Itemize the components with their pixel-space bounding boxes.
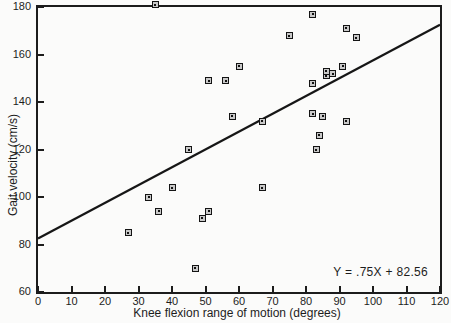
- data-point-marker: [343, 25, 350, 32]
- data-point-marker: [319, 113, 326, 120]
- x-tick: [104, 286, 106, 292]
- y-tick: [38, 196, 44, 198]
- y-tick: [38, 54, 44, 56]
- data-point-marker: [229, 113, 236, 120]
- y-tick-label: 120: [0, 143, 31, 155]
- y-tick-label: 100: [0, 190, 31, 202]
- data-point-marker: [199, 215, 206, 222]
- x-tick-label: 30: [132, 295, 144, 307]
- data-point-marker: [329, 70, 336, 77]
- x-tick: [238, 286, 240, 292]
- data-point-marker: [286, 32, 293, 39]
- x-tick-label: 70: [266, 295, 278, 307]
- y-tick-label: 140: [0, 95, 31, 107]
- y-tick-label: 60: [0, 285, 31, 297]
- data-point-marker: [145, 194, 152, 201]
- regression-equation-label: Y = .75X + 82.56: [333, 265, 428, 279]
- x-tick-label: 120: [431, 295, 449, 307]
- x-tick-label: 110: [398, 295, 416, 307]
- x-tick-label: 20: [99, 295, 111, 307]
- data-point-marker: [236, 63, 243, 70]
- x-tick: [372, 286, 374, 292]
- x-tick-label: 60: [233, 295, 245, 307]
- scatter-plot-figure: Y = .75X + 82.56 Knee flexion range of m…: [0, 0, 451, 323]
- data-point-marker: [205, 208, 212, 215]
- data-point-marker: [343, 118, 350, 125]
- y-tick-label: 180: [0, 0, 31, 12]
- plot-area: Y = .75X + 82.56: [36, 5, 442, 294]
- x-tick: [339, 286, 341, 292]
- x-tick: [439, 286, 441, 292]
- data-point-marker: [185, 146, 192, 153]
- y-tick: [38, 291, 44, 293]
- x-tick: [71, 286, 73, 292]
- data-point-marker: [353, 34, 360, 41]
- x-tick-label: 0: [35, 295, 41, 307]
- data-point-marker: [192, 265, 199, 272]
- data-point-marker: [152, 1, 159, 8]
- x-tick: [138, 286, 140, 292]
- y-tick-label: 80: [0, 238, 31, 250]
- data-point-marker: [309, 11, 316, 18]
- data-point-marker: [222, 77, 229, 84]
- regression-line: [38, 7, 440, 292]
- x-tick-label: 90: [333, 295, 345, 307]
- x-tick: [305, 286, 307, 292]
- data-point-marker: [316, 132, 323, 139]
- y-tick-label: 160: [0, 48, 31, 60]
- data-point-marker: [259, 118, 266, 125]
- data-point-marker: [125, 229, 132, 236]
- x-tick: [171, 286, 173, 292]
- y-tick: [38, 101, 44, 103]
- data-point-marker: [155, 208, 162, 215]
- x-tick-label: 10: [65, 295, 77, 307]
- data-point-marker: [309, 110, 316, 117]
- y-tick: [38, 149, 44, 151]
- data-point-marker: [259, 184, 266, 191]
- data-point-marker: [309, 80, 316, 87]
- x-tick-label: 80: [300, 295, 312, 307]
- data-point-marker: [169, 184, 176, 191]
- x-tick-label: 50: [199, 295, 211, 307]
- y-tick: [38, 6, 44, 8]
- x-tick: [205, 286, 207, 292]
- y-tick: [38, 244, 44, 246]
- data-point-marker: [313, 146, 320, 153]
- data-point-marker: [339, 63, 346, 70]
- x-tick-label: 40: [166, 295, 178, 307]
- x-tick: [406, 286, 408, 292]
- x-axis-title: Knee flexion range of motion (degrees): [133, 306, 340, 320]
- data-point-marker: [205, 77, 212, 84]
- x-tick: [272, 286, 274, 292]
- x-tick-label: 100: [364, 295, 382, 307]
